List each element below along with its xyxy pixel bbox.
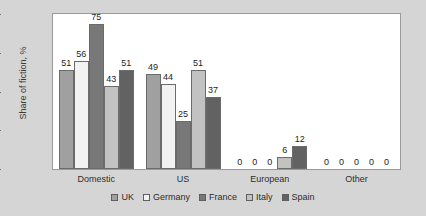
bar-groups: 5156754351494425513700061200000 [53,14,400,169]
bar-group: 5156754351 [53,14,140,169]
legend-item[interactable]: France [199,193,237,202]
bar-value-label: 51 [61,59,71,68]
y-axis-tick-mark [0,169,1,170]
legend-label: Germany [153,193,190,202]
bar-item[interactable]: 0 [334,14,349,169]
bar-value-label: 0 [354,158,359,167]
bar-value-label: 44 [163,73,173,82]
bar-value-label: 43 [106,75,116,84]
bar-value-label: 0 [384,158,389,167]
bar-group: 000612 [227,14,314,169]
bar-value-label: 0 [252,158,257,167]
bar-item[interactable]: 49 [146,14,161,169]
bar-value-label: 49 [148,63,158,72]
bar-value-label: 51 [193,59,203,68]
bar-item[interactable]: 37 [206,14,221,169]
legend-label: France [209,193,237,202]
bar-item[interactable]: 44 [161,14,176,169]
legend-label: Italy [256,193,273,202]
bar[interactable] [277,157,292,169]
x-axis-tick-label: Other [313,174,400,184]
bar-item[interactable]: 0 [262,14,277,169]
bar-value-label: 0 [267,158,272,167]
bar[interactable] [292,146,307,169]
legend-label: UK [121,193,134,202]
bar-item[interactable]: 51 [191,14,206,169]
legend-item[interactable]: Italy [246,193,273,202]
legend-item[interactable]: Spain [282,193,315,202]
bar-item[interactable]: 56 [74,14,89,169]
legend-label: Spain [292,193,315,202]
bar-group: 4944255137 [140,14,227,169]
bar-value-label: 0 [324,158,329,167]
legend-item[interactable]: UK [111,193,134,202]
legend-swatch-icon [246,194,253,201]
bar[interactable] [74,61,89,170]
bar-value-label: 25 [178,110,188,119]
bar-value-label: 6 [282,146,287,155]
legend-item[interactable]: Germany [143,193,190,202]
x-axis-tick-label: Domestic [53,174,140,184]
bar[interactable] [59,70,74,169]
bar-value-label: 0 [339,158,344,167]
x-axis-tick-label: US [140,174,227,184]
bar[interactable] [161,84,176,169]
bar-value-label: 0 [237,158,242,167]
legend-swatch-icon [282,194,289,201]
bar-value-label: 56 [76,50,86,59]
legend-swatch-icon [143,194,150,201]
bar[interactable] [104,86,119,169]
bar-item[interactable]: 25 [176,14,191,169]
bar-item[interactable]: 0 [232,14,247,169]
bar[interactable] [176,121,191,169]
bar-group: 00000 [313,14,400,169]
x-axis-category-labels: DomesticUSEuropeanOther [53,174,400,184]
bar-item[interactable]: 51 [59,14,74,169]
y-axis-title: Share of fiction, % [18,13,28,153]
x-axis-tick-label: European [227,174,314,184]
bar-value-label: 0 [369,158,374,167]
bar-value-label: 12 [295,135,305,144]
bar-item[interactable]: 6 [277,14,292,169]
bar-item[interactable]: 12 [292,14,307,169]
bar-item[interactable]: 0 [364,14,379,169]
bar-chart: Share of fiction, % 020406080 5156754351… [0,0,426,216]
chart-legend: UKGermanyFranceItalySpain [0,193,426,202]
legend-swatch-icon [199,194,206,201]
y-axis-tick-mark [0,53,1,54]
bar[interactable] [206,97,221,169]
y-axis-tick-mark [0,130,1,131]
bar-item[interactable]: 0 [247,14,262,169]
bar[interactable] [119,70,134,169]
bar-item[interactable]: 0 [319,14,334,169]
bar[interactable] [191,70,206,169]
bar-item[interactable]: 75 [89,14,104,169]
bar-value-label: 37 [208,86,218,95]
bar-item[interactable]: 51 [119,14,134,169]
bar-item[interactable]: 0 [349,14,364,169]
y-axis-tick-mark [0,14,1,15]
bar-item[interactable]: 0 [379,14,394,169]
bar-value-label: 75 [91,13,101,22]
bar[interactable] [89,24,104,169]
bar[interactable] [146,74,161,169]
bar-value-label: 51 [121,59,131,68]
legend-swatch-icon [111,194,118,201]
bar-item[interactable]: 43 [104,14,119,169]
y-axis-tick-mark [0,92,1,93]
